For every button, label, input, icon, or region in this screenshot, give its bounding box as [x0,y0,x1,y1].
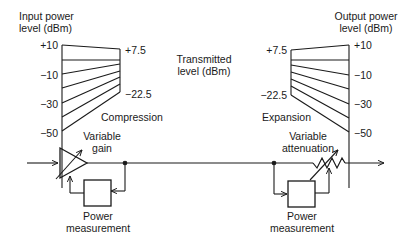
variable-gain-line2: gain [77,142,127,154]
variable-gain-label: Variable gain [77,130,127,154]
expansion-label: Expansion [262,111,311,123]
input-level-title: Input power level (dBm) [19,10,74,34]
signal-chain [27,148,384,207]
output-level-title: Output power level (dBm) [331,10,401,34]
power-measurement-label-2: Power measurement [264,210,340,234]
transmitted-level-line2: level (dBm) [170,65,238,77]
output-tick-minus10: −10 [354,69,372,81]
expansion-bottom-value: −22.5 [250,89,287,101]
power-measurement-2-line1: Power [264,210,340,222]
output-tick-plus10: +10 [354,39,372,51]
power-measurement-box-2 [288,181,315,207]
output-level-title-line2: level (dBm) [331,22,401,34]
input-level-title-line2: level (dBm) [19,22,74,34]
input-tick-plus10: +10 [26,39,58,51]
power-measurement-1-line1: Power [60,210,136,222]
output-tick-minus50: −50 [354,127,372,139]
compression-label: Compression [101,111,163,123]
power-measurement-label-1: Power measurement [60,210,136,234]
compression-top-value: +7.5 [125,44,146,56]
output-tick-minus30: −30 [354,98,372,110]
variable-gain-line1: Variable [77,130,127,142]
output-level-title-line1: Output power [331,10,401,22]
variable-attenuation-label: Variable attenuation [273,130,343,154]
transmitted-level-line1: Transmitted [170,53,238,65]
transmitted-level-title: Transmitted level (dBm) [170,53,238,77]
variable-attenuation-line1: Variable [273,130,343,142]
input-level-title-line1: Input power [19,10,74,22]
power-measurement-2-line2: measurement [264,222,340,234]
compression-bottom-value: −22.5 [125,88,152,100]
input-tick-minus10: −10 [26,69,58,81]
expansion-top-value: +7.5 [250,44,287,56]
power-measurement-1-line2: measurement [60,222,136,234]
input-tick-minus50: −50 [26,127,58,139]
input-tick-minus30: −30 [26,98,58,110]
power-measurement-box-1 [84,180,111,206]
variable-attenuation-line2: attenuation [273,142,343,154]
